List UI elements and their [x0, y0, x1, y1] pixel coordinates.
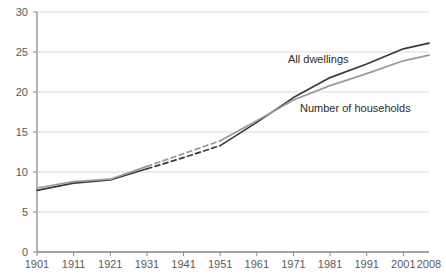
x-tick-label: 1961 [240, 259, 274, 270]
x-tick-label: 1921 [93, 259, 127, 270]
x-tick-label: 1941 [167, 259, 201, 270]
series-line-dashed-1 [147, 141, 220, 167]
y-tick-label: 25 [2, 47, 28, 58]
series-line-1 [37, 166, 147, 188]
x-tick-label: 1901 [20, 259, 54, 270]
x-tick-label: 1911 [57, 259, 91, 270]
series-line-dashed-0 [147, 146, 220, 169]
series-label-0: All dwellings [288, 54, 349, 65]
series-label-1: Number of households [300, 103, 411, 114]
y-tick-label: 15 [2, 127, 28, 138]
gridlines [37, 12, 429, 252]
y-tick-label: 5 [2, 207, 28, 218]
y-tick-label: 30 [2, 7, 28, 18]
y-tick-label: 10 [2, 167, 28, 178]
x-tick-label: 1991 [350, 259, 384, 270]
axis-ticks [33, 12, 403, 256]
series-line-1 [220, 55, 429, 141]
y-tick-label: 20 [2, 87, 28, 98]
x-tick-label: 2008 [412, 259, 446, 270]
x-tick-label: 1951 [203, 259, 237, 270]
data-series [37, 43, 429, 190]
x-tick-label: 1981 [313, 259, 347, 270]
x-tick-label: 1931 [130, 259, 164, 270]
y-tick-label: 0 [2, 247, 28, 258]
x-tick-label: 1971 [276, 259, 310, 270]
